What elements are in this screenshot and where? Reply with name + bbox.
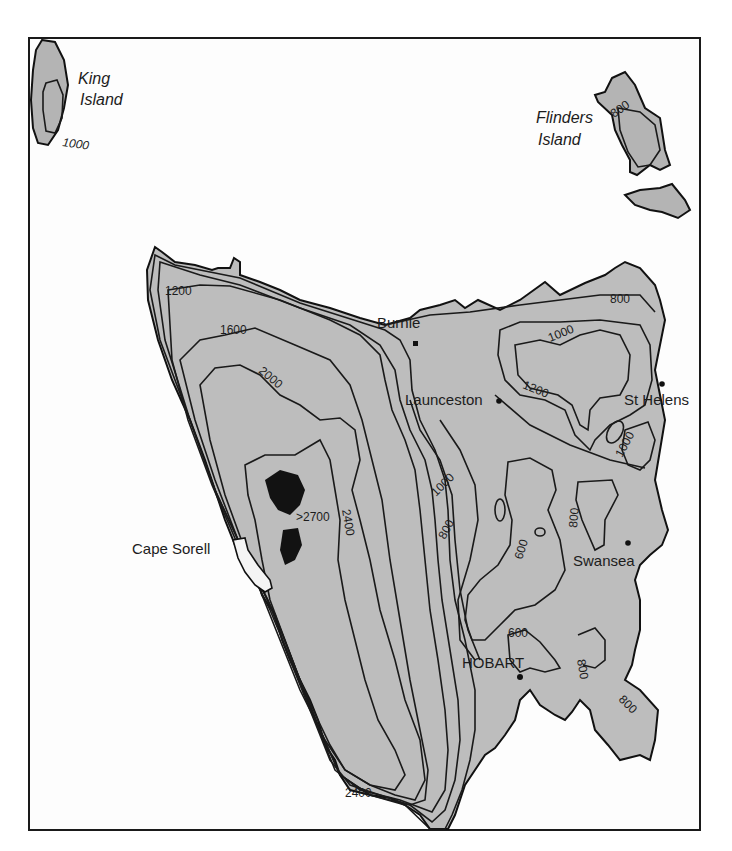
burnie-marker: [413, 341, 418, 346]
contour-600-hobart: 600: [508, 626, 528, 640]
place-hobart: HOBART: [462, 654, 524, 671]
contour-2400-south: 2400: [345, 786, 372, 800]
launceston-marker: [496, 398, 502, 404]
swansea-marker: [625, 540, 631, 546]
king-island: [31, 40, 68, 145]
place-st-helens: St Helens: [624, 391, 689, 408]
contour-1600-nw: 1600: [220, 323, 247, 337]
place-swansea: Swansea: [573, 552, 635, 569]
flinders-island: [595, 72, 690, 218]
place-cape-sorell: Cape Sorell: [132, 540, 210, 557]
contour-800-ne: 800: [610, 292, 630, 306]
place-burnie: Burnie: [377, 314, 420, 331]
place-launceston: Launceston: [405, 391, 483, 408]
contour-800-swansea: 800: [566, 507, 582, 528]
flinders-island-label-2: Island: [538, 131, 582, 148]
st-helens-marker: [659, 381, 665, 387]
king-island-label-1: King: [78, 70, 110, 87]
contour-peak: >2700: [296, 510, 330, 524]
rainfall-map: King Island 1000 Flinders Island 800 Bur…: [0, 0, 732, 851]
contour-1200-nw: 1200: [165, 284, 192, 298]
king-island-label-2: Island: [80, 91, 124, 108]
hobart-marker: [517, 674, 523, 680]
king-island-1000-label: 1000: [62, 135, 91, 153]
flinders-island-label-1: Flinders: [536, 109, 593, 126]
